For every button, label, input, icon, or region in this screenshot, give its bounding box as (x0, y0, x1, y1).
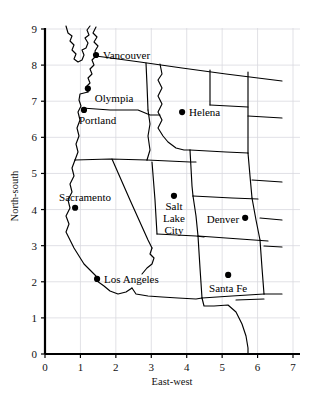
map-chart-figure: 01234567 0123456789 VancouverOlympiaPort… (0, 0, 312, 405)
x-tick-label: 2 (113, 361, 119, 373)
city-label-denver: Denver (207, 213, 240, 225)
city-label-salt-lake-city: Salt (165, 200, 182, 212)
x-tick-label: 7 (290, 361, 296, 373)
figure-background (0, 0, 312, 405)
y-tick-label: 5 (32, 167, 38, 179)
x-axis-title: East-west (152, 376, 193, 387)
y-tick-label: 3 (32, 240, 38, 252)
city-label-santa-fe: Santa Fe (209, 282, 247, 294)
city-marker-salt-lake-city[interactable] (171, 193, 177, 199)
city-label-portland: Portland (79, 114, 117, 126)
city-marker-los-angeles[interactable] (94, 276, 100, 282)
y-tick-label: 1 (32, 312, 38, 324)
city-marker-helena[interactable] (179, 109, 185, 115)
x-tick-label: 0 (42, 361, 48, 373)
city-marker-olympia[interactable] (85, 85, 91, 91)
city-label-salt-lake-city: Lake (163, 212, 185, 224)
x-tick-label: 3 (149, 361, 155, 373)
map-scatter-plot: 01234567 0123456789 VancouverOlympiaPort… (0, 0, 312, 405)
city-marker-sacramento[interactable] (72, 205, 78, 211)
y-tick-label: 4 (32, 204, 38, 216)
city-marker-portland[interactable] (81, 107, 87, 113)
y-tick-label: 2 (32, 276, 38, 288)
city-label-olympia: Olympia (95, 92, 134, 104)
city-label-vancouver: Vancouver (103, 49, 150, 61)
city-label-salt-lake-city: City (164, 224, 183, 236)
x-tick-label: 6 (255, 361, 261, 373)
city-label-helena: Helena (189, 106, 220, 118)
x-tick-label: 5 (219, 361, 225, 373)
x-tick-label: 1 (78, 361, 84, 373)
y-tick-label: 9 (32, 23, 38, 35)
y-tick-label: 6 (32, 131, 38, 143)
city-marker-santa-fe[interactable] (225, 272, 231, 278)
x-tick-label: 4 (184, 361, 190, 373)
city-label-sacramento: Sacramento (59, 191, 111, 203)
city-marker-vancouver[interactable] (93, 52, 99, 58)
y-tick-label: 0 (32, 348, 38, 360)
y-axis-title: North-south (9, 170, 20, 221)
y-tick-label: 7 (32, 95, 38, 107)
y-tick-label: 8 (32, 59, 38, 71)
city-label-los-angeles: Los Angeles (104, 273, 159, 285)
city-marker-denver[interactable] (242, 215, 248, 221)
